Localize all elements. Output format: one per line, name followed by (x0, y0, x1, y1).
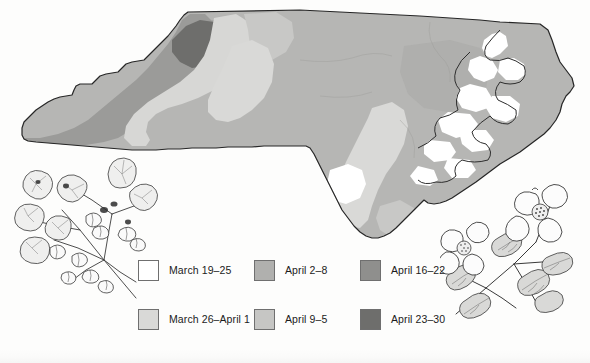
scan-artifact-band (0, 349, 590, 363)
bloom-date-legend: March 19–25 April 2–8 April 16–22 March … (138, 253, 458, 348)
legend-item-april-9-5[interactable]: April 9–5 (254, 309, 327, 330)
legend-label-march-26-april-1: March 26–April 1 (169, 314, 250, 325)
legend-swatch-march-26-april-1 (138, 309, 159, 330)
legend-swatch-march-19-25 (138, 260, 159, 281)
bloom-date-figure: March 19–25 April 2–8 April 16–22 March … (0, 0, 590, 363)
dogwood-illustration (440, 176, 590, 321)
legend-swatch-april-2-8 (254, 260, 275, 281)
zone-march-19-25-pocket-b (262, 158, 292, 182)
legend-swatch-april-16-22 (360, 260, 381, 281)
legend-item-april-23-30[interactable]: April 23–30 (360, 309, 445, 330)
legend-label-april-23-30: April 23–30 (391, 314, 445, 325)
legend-label-april-2-8: April 2–8 (285, 265, 327, 276)
legend-row-bottom: March 26–April 1 April 9–5 April 23–30 (138, 309, 458, 333)
legend-swatch-april-23-30 (360, 309, 381, 330)
dogwood-illustration-svg (440, 176, 590, 321)
legend-item-march-19-25[interactable]: March 19–25 (138, 260, 231, 281)
zone-march-19-25-pocket-a (326, 164, 366, 204)
legend-item-april-2-8[interactable]: April 2–8 (254, 260, 327, 281)
legend-label-april-16-22: April 16–22 (391, 265, 445, 276)
legend-item-april-16-22[interactable]: April 16–22 (360, 260, 445, 281)
legend-label-march-19-25: March 19–25 (169, 265, 231, 276)
legend-row-top: March 19–25 April 2–8 April 16–22 (138, 260, 458, 284)
legend-item-march-26-april-1[interactable]: March 26–April 1 (138, 309, 250, 330)
legend-label-april-9-5: April 9–5 (285, 314, 327, 325)
legend-swatch-april-9-5 (254, 309, 275, 330)
